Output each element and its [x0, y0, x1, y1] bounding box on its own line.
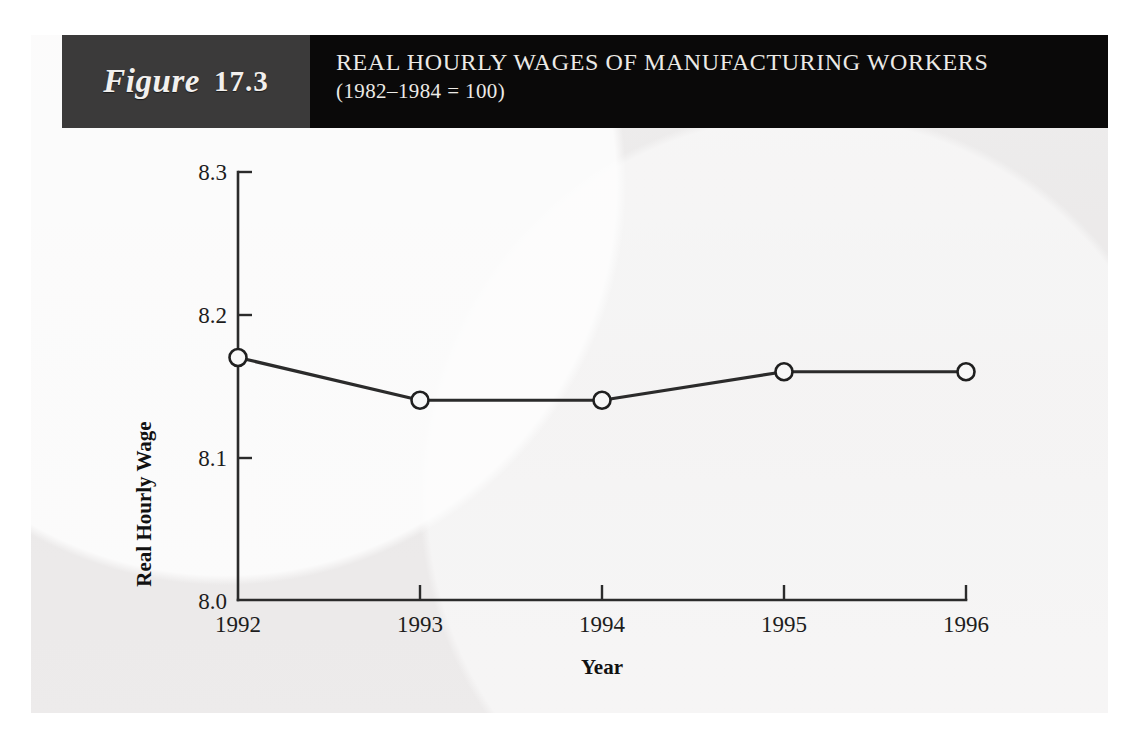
- x-tick-label: 1993: [397, 612, 443, 637]
- data-point-1995: [776, 363, 793, 380]
- figure-title-block: REAL HOURLY WAGES OF MANUFACTURING WORKE…: [310, 35, 1108, 128]
- figure-label: Figure: [103, 63, 200, 100]
- y-tick-label: 8.3: [198, 160, 227, 185]
- data-point-1993: [412, 392, 429, 409]
- y-tick-label: 8.2: [198, 303, 227, 328]
- x-tick-label: 1996: [943, 612, 989, 637]
- series-markers: [230, 349, 975, 409]
- y-tick-label: 8.0: [198, 589, 227, 614]
- x-tick-label: 1995: [761, 612, 807, 637]
- x-tick-label: 1992: [215, 612, 261, 637]
- figure-number: 17.3: [214, 65, 269, 98]
- chart-subtitle: (1982–1984 = 100): [336, 79, 1108, 104]
- data-point-1992: [230, 349, 247, 366]
- figure-root: Figure 17.3 REAL HOURLY WAGES OF MANUFAC…: [0, 0, 1139, 751]
- figure-header: Figure 17.3 REAL HOURLY WAGES OF MANUFAC…: [62, 35, 1108, 128]
- plot-area: Real Hourly Wage 8.3 8.2 8.1 8.0: [31, 128, 1108, 713]
- x-tick-label: 1994: [579, 612, 626, 637]
- y-axis-tick-labels: 8.3 8.2 8.1 8.0: [198, 160, 227, 614]
- line-chart: Real Hourly Wage 8.3 8.2 8.1 8.0: [31, 128, 1108, 713]
- data-point-1996: [958, 363, 975, 380]
- y-axis-title: Real Hourly Wage: [132, 421, 156, 586]
- data-point-1994: [594, 392, 611, 409]
- y-tick-label: 8.1: [198, 446, 227, 471]
- x-axis-title: Year: [581, 655, 623, 679]
- y-axis-ticks: [238, 172, 252, 458]
- x-axis-ticks: [420, 585, 966, 600]
- x-axis-tick-labels: 1992 1993 1994 1995 1996: [215, 612, 989, 637]
- chart-title: REAL HOURLY WAGES OF MANUFACTURING WORKE…: [336, 49, 1108, 77]
- figure-number-block: Figure 17.3: [62, 35, 310, 128]
